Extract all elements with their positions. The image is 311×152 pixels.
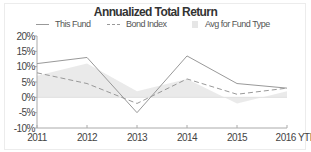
x-tick-label: 2016 YTD [276, 132, 311, 143]
x-tick-label: 2014 [177, 132, 198, 143]
x-tick-label: 2013 [127, 132, 148, 143]
y-tick-label: 0% [22, 92, 36, 103]
y-tick-label: -5% [19, 107, 36, 118]
plot-area: 20%15%10%5%0%-5%-10%20112012201320142015… [0, 0, 311, 152]
y-tick-label: 15% [16, 46, 35, 57]
x-tick-label: 2015 [227, 132, 248, 143]
x-tick-label: 2011 [27, 132, 47, 143]
y-tick-label: 10% [16, 61, 35, 72]
y-tick-label: 20% [16, 31, 35, 42]
y-tick-label: 5% [22, 77, 36, 88]
x-tick-label: 2012 [77, 132, 98, 143]
